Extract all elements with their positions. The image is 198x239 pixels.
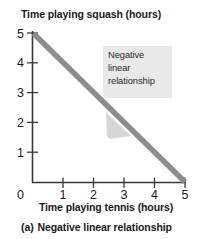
x-tick-labels: 1 2 3 4 5 xyxy=(60,188,189,202)
annotation-callout: Negative linear relationship xyxy=(103,46,172,98)
x-tick-label: 4 xyxy=(151,188,158,202)
y-tick-label: 3 xyxy=(17,86,24,100)
caption-text: Negative linear relationship xyxy=(38,221,172,233)
y-tick-labels: 5 4 3 2 1 0 xyxy=(17,27,24,203)
y-tick-label: 2 xyxy=(17,116,24,130)
y-tick-label: 1 xyxy=(17,146,24,160)
y-tick-label: 5 xyxy=(17,27,24,41)
x-tick-label: 1 xyxy=(60,188,67,202)
annotation-line-2: linear xyxy=(108,62,168,75)
annotation-line-1: Negative xyxy=(108,49,168,62)
x-tick-label: 5 xyxy=(182,188,189,202)
y-tick-label: 4 xyxy=(17,56,24,70)
x-tick-label: 2 xyxy=(90,188,97,202)
figure-caption: (a)Negative linear relationship xyxy=(21,221,172,233)
annotation-line-3: relationship xyxy=(108,75,168,88)
x-tick-label: 3 xyxy=(121,188,128,202)
caption-index: (a) xyxy=(21,221,34,233)
x-axis-title: Time playing tennis (hours) xyxy=(0,201,198,213)
y-tick-label-zero: 0 xyxy=(17,188,24,202)
figure-container: Time playing squash (hours) 5 4 3 2 xyxy=(0,0,198,239)
